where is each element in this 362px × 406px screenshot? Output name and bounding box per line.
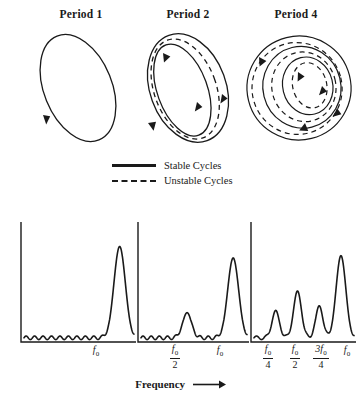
tick-label-p3-f0-over-4: f0 4 <box>255 344 281 370</box>
legend-swatch-dashed <box>112 180 156 182</box>
spectrum-trace <box>141 258 247 340</box>
direction-arrow <box>148 122 156 131</box>
phase-portrait-period-1 <box>22 22 140 154</box>
tick-label-p3-3f0-over-4: 3f0 4 <box>306 344 336 370</box>
legend-swatch-solid <box>112 164 156 167</box>
phase-portrait-row <box>0 22 362 154</box>
legend-item-stable: Stable Cycles <box>112 158 292 173</box>
frequency-axis-caption: Frequency <box>0 378 362 391</box>
frequency-axis-label: Frequency <box>135 378 185 390</box>
direction-arrow <box>195 102 203 111</box>
spectrum-panel-period-4 <box>248 218 358 346</box>
tick-label-p3-f0: f0 <box>334 344 360 358</box>
legend-item-unstable: Unstable Cycles <box>112 173 292 188</box>
direction-arrow <box>299 123 308 131</box>
panel-title-period-4: Period 4 <box>248 8 344 20</box>
tick-label-p2-f0: f0 <box>206 344 234 358</box>
spectrum-trace <box>254 256 354 340</box>
axis-lines <box>21 222 136 342</box>
tick-label-p2-f0-over-2: f0 2 <box>161 344 189 370</box>
spectrum-panel-period-1 <box>18 218 138 346</box>
spectrum-panel-period-2 <box>135 218 251 346</box>
figure-period-doubling: Period 1 Period 2 Period 4 <box>0 0 362 406</box>
stable-cycle-loop <box>25 23 130 152</box>
direction-arrow <box>43 115 50 125</box>
direction-arrow <box>298 72 305 82</box>
spectra-row <box>0 218 362 346</box>
legend: Stable Cycles Unstable Cycles <box>112 158 292 192</box>
legend-label-unstable: Unstable Cycles <box>164 173 233 188</box>
unstable-cycle-loop <box>138 30 232 149</box>
right-arrow-icon <box>193 379 227 391</box>
panel-title-period-1: Period 1 <box>36 8 126 20</box>
direction-arrow <box>259 57 266 67</box>
tick-label-p3-f0-over-2: f0 2 <box>282 344 308 370</box>
legend-label-stable: Stable Cycles <box>164 158 221 173</box>
tick-label-row: f0 f0 2 f0 f0 4 f0 2 3f0 <box>0 344 362 376</box>
tick-label-p1-f0: f0 <box>82 344 110 358</box>
phase-portrait-period-2 <box>130 22 248 154</box>
phase-portrait-period-4 <box>236 22 362 154</box>
axis-lines <box>138 222 249 342</box>
direction-arrow <box>220 94 227 104</box>
stable-cycle-outer <box>236 25 362 151</box>
direction-arrow <box>163 53 170 63</box>
direction-arrow <box>319 86 327 95</box>
direction-arrow <box>333 108 341 117</box>
spectrum-trace <box>24 247 134 340</box>
stable-cycle-outer <box>133 22 243 153</box>
panel-title-period-2: Period 2 <box>143 8 233 20</box>
